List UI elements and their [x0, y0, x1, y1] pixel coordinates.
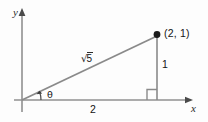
radicand-value: 5 [87, 52, 94, 64]
point-label: (2, 1) [164, 28, 190, 39]
point-marker-icon [154, 31, 161, 38]
hypotenuse-line [22, 36, 157, 100]
hypotenuse-label: √5 [81, 54, 93, 64]
y-axis-arrowhead [19, 8, 26, 16]
right-angle-icon [147, 90, 157, 101]
x-axis-label: x [191, 103, 196, 114]
radical-expression: √5 [81, 54, 93, 64]
y-axis [19, 8, 26, 112]
diagram-canvas [0, 0, 208, 122]
geometry-figure: y x (2, 1) √5 1 2 θ [0, 0, 208, 122]
opposite-side-label: 1 [162, 59, 168, 70]
adjacent-side-label: 2 [90, 104, 96, 115]
angle-label: θ [47, 90, 53, 100]
y-axis-label: y [13, 7, 18, 18]
